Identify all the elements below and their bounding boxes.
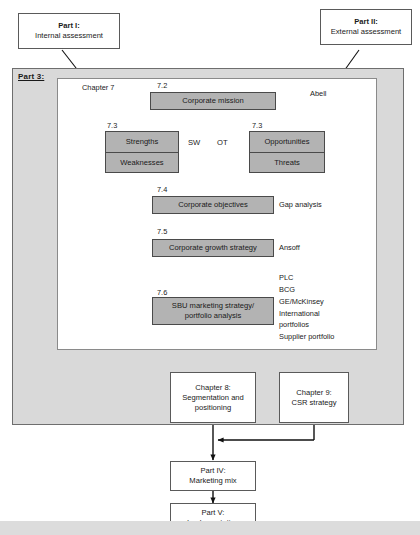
part4-subtitle: Marketing mix xyxy=(189,476,236,486)
portfolio-note-supplier-portfolio: Supplier portfolio xyxy=(279,332,334,343)
chapter8-line-3: positioning xyxy=(195,403,231,413)
part1-subtitle: Internal assessment xyxy=(35,31,103,41)
chapter8-line-1: Chapter 8: xyxy=(195,383,230,393)
section-number-7-6: 7.6 xyxy=(157,288,167,297)
abell-label: Abell xyxy=(310,89,326,100)
bottom-strip xyxy=(0,521,420,535)
ansoff-note: Ansoff xyxy=(279,243,300,254)
chapter8-line-2: Segmentation and xyxy=(182,393,244,403)
weaknesses-cell: Weaknesses xyxy=(106,153,178,173)
sw-label: SW xyxy=(188,138,200,147)
portfolio-note-bcg: BCG xyxy=(279,285,295,296)
ot-label: OT xyxy=(217,138,228,147)
section-number-7-4: 7.4 xyxy=(157,185,167,194)
sbu-line-1: SBU marketing strategy/ xyxy=(172,301,254,311)
section-number-7-3-left: 7.3 xyxy=(107,121,117,130)
section-number-7-2: 7.2 xyxy=(157,81,167,90)
portfolio-note-plc: PLC xyxy=(279,273,293,284)
part4-box: Part IV: Marketing mix xyxy=(170,461,256,491)
corporate-mission-label: Corporate mission xyxy=(182,96,244,106)
chapter9-line-1: Chapter 9: xyxy=(296,388,331,398)
section-number-7-5: 7.5 xyxy=(157,227,167,236)
diagram-canvas: Part 3: Part I: Internal assessment Part… xyxy=(0,0,420,535)
part1-title: Part I: xyxy=(58,21,80,31)
part3-label: Part 3: xyxy=(18,72,44,81)
portfolio-note-international: International xyxy=(279,309,320,320)
portfolio-note-ge-mckinsey: GE/McKinsey xyxy=(279,297,324,308)
part2-title: Part II: xyxy=(354,17,378,27)
part1-box: Part I: Internal assessment xyxy=(18,13,120,49)
sbu-marketing-strategy-box: SBU marketing strategy/ portfolio analys… xyxy=(152,297,274,325)
corporate-objectives-box: Corporate objectives xyxy=(152,196,274,214)
chapter8-box: Chapter 8: Segmentation and positioning xyxy=(170,372,256,423)
part2-box: Part II: External assessment xyxy=(320,9,412,45)
part5-title: Part V: xyxy=(202,508,225,518)
strengths-cell: Strengths xyxy=(106,132,178,153)
swot-internal-box: Strengths Weaknesses xyxy=(105,131,179,173)
part4-title: Part IV: xyxy=(200,466,225,476)
corporate-mission-box: Corporate mission xyxy=(150,92,276,110)
sbu-line-2: portfolio analysis xyxy=(185,311,242,321)
chapter7-label: Chapter 7 xyxy=(82,83,114,94)
chapter9-line-2: CSR strategy xyxy=(291,398,336,408)
gap-analysis-note: Gap analysis xyxy=(279,200,322,211)
corporate-growth-strategy-label: Corporate growth strategy xyxy=(169,243,257,253)
section-number-7-3-right: 7.3 xyxy=(252,121,262,130)
portfolio-note-portfolios: portfolios xyxy=(279,320,309,331)
swot-external-box: Opportunities Threats xyxy=(249,131,325,173)
corporate-objectives-label: Corporate objectives xyxy=(178,200,248,210)
opportunities-cell: Opportunities xyxy=(250,132,324,153)
threats-cell: Threats xyxy=(250,153,324,173)
corporate-growth-strategy-box: Corporate growth strategy xyxy=(152,239,274,257)
part2-subtitle: External assessment xyxy=(331,27,401,37)
chapter9-box: Chapter 9: CSR strategy xyxy=(279,372,349,423)
